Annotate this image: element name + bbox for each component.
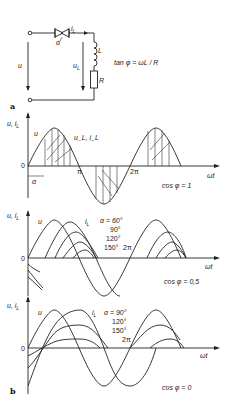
svg-text:150°: 150° (104, 244, 119, 251)
svg-text:iL: iL (92, 309, 97, 318)
svg-text:90°: 90° (110, 226, 121, 233)
svg-text:120°: 120° (112, 318, 127, 325)
svg-text:α: α (32, 178, 37, 185)
svg-text:α = 60°: α = 60° (100, 217, 123, 224)
svg-text:iL: iL (71, 25, 76, 34)
svg-text:0: 0 (21, 162, 25, 169)
svg-text:iL: iL (85, 218, 90, 227)
svg-text:cos φ = 0,5: cos φ = 0,5 (164, 278, 199, 286)
inductor-icon (94, 42, 97, 66)
svg-text:u: u (18, 62, 22, 69)
svg-text:u_L, i_L: u_L, i_L (74, 134, 99, 141)
svg-text:u, iL: u, iL (7, 120, 19, 129)
svg-text:u: u (38, 309, 42, 316)
svg-text:0: 0 (21, 345, 25, 352)
svg-text:α = 90°: α = 90° (104, 309, 127, 316)
svg-text:u, iL: u, iL (7, 212, 19, 221)
svg-text:L: L (98, 47, 102, 54)
svg-text:2π: 2π (122, 336, 131, 343)
svg-text:a: a (10, 101, 15, 111)
svg-text:b: b (10, 386, 16, 396)
current-arrow-icon (84, 31, 88, 35)
svg-text:ωt: ωt (205, 263, 213, 270)
svg-text:cos φ = 0: cos φ = 0 (162, 384, 191, 392)
svg-text:u: u (34, 130, 38, 137)
ac-controller-diagram: iL α L R u uL tan φ = ωL / R a u, iL (0, 0, 232, 412)
svg-text:R: R (99, 77, 104, 84)
svg-text:u: u (38, 218, 42, 225)
input-terminal-bottom (28, 98, 32, 102)
svg-text:uL: uL (73, 62, 80, 71)
chart-inductive: u, iL 0 u iL α = 90° 120° 150° 2π ωt cos… (7, 296, 220, 396)
svg-text:0: 0 (21, 255, 25, 262)
chart-resistive: u, iL 0 u u_L, i_L α π 2π ωt cos φ = 1 (7, 112, 220, 204)
load-voltage-arrow-icon (81, 86, 85, 91)
svg-text:2π: 2π (130, 168, 139, 175)
circuit-schematic: iL α L R u uL tan φ = ωL / R a (10, 25, 158, 111)
svg-text:150°: 150° (112, 327, 127, 334)
svg-text:u, iL: u, iL (7, 302, 19, 311)
svg-text:ωt: ωt (207, 172, 215, 179)
svg-text:cos φ = 1: cos φ = 1 (162, 182, 191, 190)
input-terminal-top (28, 31, 32, 35)
svg-text:tan φ = ωL / R: tan φ = ωL / R (114, 59, 158, 67)
voltage-arrow-icon (26, 86, 30, 91)
chart-mixed-load: u, iL 0 u iL α = 60° 90° 120° 150° 2π ωt… (7, 210, 220, 296)
svg-text:π: π (77, 168, 82, 175)
svg-text:2π: 2π (123, 244, 132, 251)
svg-text:120°: 120° (106, 235, 121, 242)
resistor-icon (91, 71, 98, 88)
current-curve-150 (73, 250, 186, 258)
svg-text:ωt: ωt (200, 352, 208, 359)
